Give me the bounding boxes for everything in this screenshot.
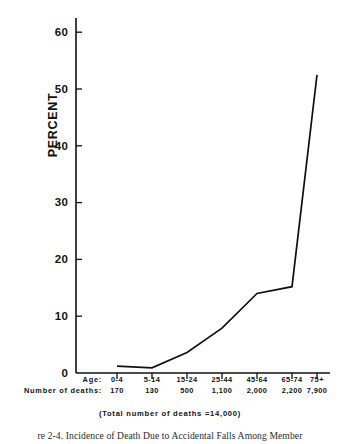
data-series-line [117,75,317,368]
y-tick-label-30: 30 [42,196,68,208]
row-header-deaths: Number of deaths: [24,386,102,395]
total-deaths-note: (Total number of deaths =14,000) [0,409,340,418]
y-tick-label-60: 60 [42,26,68,38]
y-tick-marks [76,32,82,316]
age-cell-6: 75+ [296,375,338,384]
y-tick-label-50: 50 [42,83,68,95]
y-tick-label-20: 20 [42,253,68,265]
deaths-cell-6: 7,900 [296,386,338,395]
figure-caption: re 2-4. Incidence of Death Due to Accide… [0,430,340,441]
figure-container: PERCENT 60 50 40 30 20 10 0 Age: 0-4 5-1… [0,0,340,444]
table-row-deaths: Number of deaths: 170 130 500 1,100 2,00… [0,386,340,397]
axis-label-table: Age: 0-4 5-14 15-24 25-44 45-64 65-74 75… [0,375,340,397]
y-tick-label-40: 40 [42,140,68,152]
table-row-age: Age: 0-4 5-14 15-24 25-44 45-64 65-74 75… [0,375,340,386]
y-tick-label-10: 10 [42,310,68,322]
